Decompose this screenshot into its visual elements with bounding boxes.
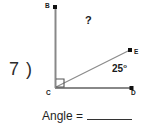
- vertex-label-e: E: [134, 49, 138, 56]
- problem-number: 7 ): [9, 60, 33, 78]
- answer-blank-input[interactable]: [87, 108, 132, 120]
- vertex-label-b: B: [45, 3, 50, 10]
- known-angle-value: 25: [112, 63, 123, 74]
- vertex-label-c: C: [46, 90, 51, 97]
- vertex-label-d: D: [131, 90, 136, 97]
- point-dot-e: [128, 48, 132, 52]
- answer-label: Angle =: [42, 109, 83, 123]
- answer-row: Angle =: [42, 108, 132, 123]
- known-angle-label: 25o: [112, 63, 127, 74]
- degree-symbol-icon: o: [123, 63, 127, 69]
- point-dot-b: [53, 5, 57, 9]
- unknown-angle-marker: ?: [85, 15, 92, 26]
